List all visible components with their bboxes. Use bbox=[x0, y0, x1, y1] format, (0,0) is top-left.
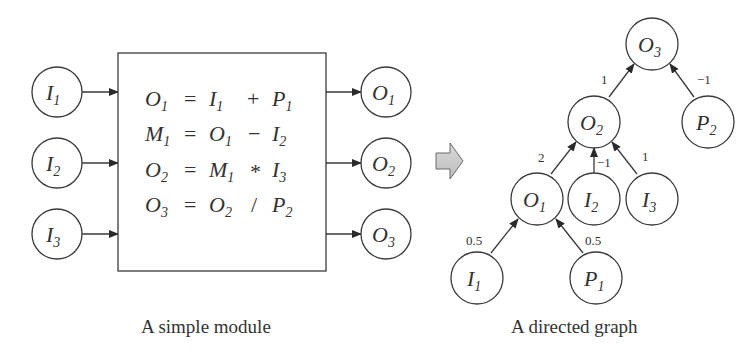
transform-arrow-icon bbox=[436, 143, 463, 179]
edge-o1-o2 bbox=[551, 142, 576, 174]
diagram-canvas: I1 I2 I3 O1 = I1 + P1 M1 = O1 − I2 bbox=[0, 0, 756, 351]
edge-p2-o3 bbox=[670, 64, 694, 97]
edge-o2-o3 bbox=[609, 64, 634, 97]
graph-node-o1: O1 bbox=[511, 173, 563, 225]
module-output-node-o1: O1 bbox=[361, 67, 411, 117]
module-input-node-i1: I1 bbox=[32, 67, 82, 117]
module-output-node-o3: O3 bbox=[361, 209, 411, 259]
svg-text:+: + bbox=[247, 86, 259, 111]
weight-i3-o2: 1 bbox=[642, 149, 649, 164]
svg-text:=: = bbox=[184, 86, 196, 111]
graph-caption: A directed graph bbox=[511, 316, 638, 337]
weight-p2-o3: −1 bbox=[697, 72, 711, 87]
svg-text:/: / bbox=[251, 192, 258, 217]
module-caption: A simple module bbox=[141, 316, 271, 337]
edge-p1-o1 bbox=[556, 219, 583, 253]
edge-i1-o1 bbox=[491, 219, 518, 253]
module-output-node-o2: O2 bbox=[361, 138, 411, 188]
graph-node-p1: P1 bbox=[570, 252, 622, 304]
edge-i3-o2 bbox=[612, 142, 637, 174]
weight-o1-o2: 2 bbox=[538, 150, 545, 165]
svg-text:=: = bbox=[184, 157, 196, 182]
svg-text:=: = bbox=[184, 121, 196, 146]
graph-node-i1: I1 bbox=[451, 252, 503, 304]
svg-text:−: − bbox=[248, 121, 260, 146]
weight-i2-o2: −1 bbox=[597, 155, 611, 170]
module-input-node-i2: I2 bbox=[32, 138, 82, 188]
simple-module: I1 I2 I3 O1 = I1 + P1 M1 = O1 − I2 bbox=[32, 53, 411, 337]
svg-text:*: * bbox=[250, 159, 261, 184]
weight-i1-o1: 0.5 bbox=[466, 233, 482, 248]
graph-node-p2: P2 bbox=[682, 96, 734, 148]
graph-node-o3: O3 bbox=[626, 18, 678, 70]
weight-p1-o1: 0.5 bbox=[585, 233, 601, 248]
module-input-node-i3: I3 bbox=[32, 209, 82, 259]
directed-graph: 1 −1 2 −1 1 0.5 0.5 O3 O2 P2 O1 I2 I3 bbox=[451, 18, 734, 337]
graph-node-i2: I2 bbox=[568, 173, 620, 225]
graph-node-o2: O2 bbox=[568, 96, 620, 148]
weight-o2-o3: 1 bbox=[601, 72, 608, 87]
graph-node-i3: I3 bbox=[626, 173, 678, 225]
svg-text:=: = bbox=[184, 192, 196, 217]
